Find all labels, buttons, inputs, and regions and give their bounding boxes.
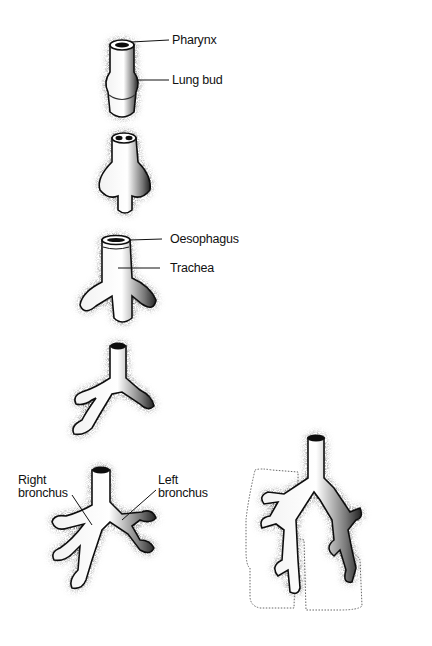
left-bronchus-label-line2: bronchus — [158, 486, 208, 500]
oesophagus-label: Oesophagus — [170, 232, 239, 246]
oesophagus-leader-line — [130, 239, 162, 240]
stage-2-bilobed-bud-drawing — [99, 133, 150, 213]
right-bronchus-label-line1: Right — [18, 473, 46, 487]
stage-3-trachea-drawing — [80, 236, 156, 323]
trachea-label: Trachea — [170, 261, 214, 275]
lung-bud-label: Lung bud — [172, 73, 223, 87]
stage-1-lung-bud-drawing — [106, 40, 138, 117]
pharynx-leader-line — [131, 40, 169, 42]
lung-development-diagram: Pharynx Lung bud Oesophagus Trachea Righ… — [0, 0, 432, 646]
stage-5-bronchi-drawing — [52, 467, 156, 589]
pharynx-label: Pharynx — [172, 33, 216, 47]
right-bronchus-label-line2: bronchus — [18, 486, 68, 500]
left-bronchus-label-line1: Left — [158, 473, 178, 487]
stage-4-early-branching-drawing — [73, 343, 154, 435]
stage-6-branches — [261, 435, 361, 594]
diagram-drawings — [0, 0, 432, 646]
